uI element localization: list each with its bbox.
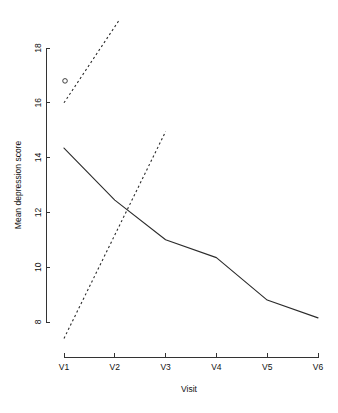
y-axis-title: Mean depression score <box>13 141 23 230</box>
y-tick-label-14: 14 <box>33 153 43 163</box>
x-tick-label-v2: V2 <box>110 362 121 372</box>
x-axis-title: Visit <box>181 384 198 394</box>
chart-canvas: 18 16 14 12 10 8 Mean depression score V… <box>0 0 338 413</box>
x-tick-label-v5: V5 <box>262 362 273 372</box>
x-tick-label-v4: V4 <box>211 362 222 372</box>
x-axis: V1 V2 V3 V4 V5 V6 <box>59 353 324 372</box>
x-tick-label-v3: V3 <box>160 362 171 372</box>
x-tick-label-v1: V1 <box>59 362 70 372</box>
series-layer <box>64 21 318 339</box>
depression-score-line-chart: 18 16 14 12 10 8 Mean depression score V… <box>0 0 338 413</box>
series-line-2 <box>64 132 166 339</box>
y-axis-line <box>46 48 50 322</box>
y-tick-label-8: 8 <box>33 319 43 324</box>
series-line-1 <box>64 21 119 103</box>
y-tick-label-12: 12 <box>33 207 43 217</box>
series-line-0 <box>64 148 318 318</box>
y-tick-label-18: 18 <box>33 43 43 53</box>
y-axis: 18 16 14 12 10 8 <box>33 43 50 324</box>
y-tick-label-10: 10 <box>33 262 43 272</box>
marker-layer <box>63 79 68 84</box>
open-circle-point <box>63 79 68 84</box>
x-tick-label-v6: V6 <box>313 362 324 372</box>
y-tick-label-16: 16 <box>33 98 43 108</box>
x-axis-line <box>64 353 318 357</box>
